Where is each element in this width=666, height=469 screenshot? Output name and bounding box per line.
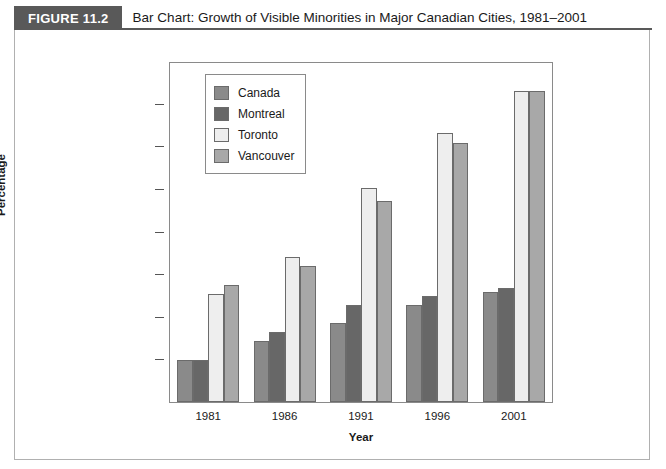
figure-number-badge: FIGURE 11.2: [14, 6, 122, 30]
bar-toronto-1996: [437, 133, 453, 402]
bar-montreal-1986: [269, 332, 285, 402]
bar-montreal-1996: [422, 296, 438, 402]
legend-label-montreal: Montreal: [238, 107, 285, 121]
bar-canada-1991: [330, 323, 346, 402]
y-axis-title: Percentage: [0, 154, 7, 216]
legend-swatch-vancouver: [214, 149, 229, 163]
y-tick-mark: [155, 359, 164, 360]
bar-toronto-1981: [208, 294, 224, 402]
legend-swatch-toronto: [214, 128, 229, 142]
bar-toronto-1986: [285, 257, 301, 402]
x-axis-label-1991: 1991: [323, 410, 399, 422]
bar-vancouver-1996: [453, 143, 469, 402]
bar-canada-1981: [177, 360, 193, 402]
legend-item-montreal: Montreal: [214, 103, 294, 124]
y-tick-mark: [155, 146, 164, 147]
chart-plot-area: Percentage 0510152025303540 198119861991…: [15, 30, 651, 460]
bar-vancouver-2001: [529, 91, 545, 402]
legend-item-toronto: Toronto: [214, 124, 294, 145]
legend-label-canada: Canada: [238, 86, 280, 100]
bar-vancouver-1981: [224, 285, 240, 402]
legend-item-vancouver: Vancouver: [214, 145, 294, 166]
x-axis-label-1981: 1981: [170, 410, 246, 422]
y-tick-mark: [155, 189, 164, 190]
legend-swatch-canada: [214, 86, 229, 100]
figure-container: FIGURE 11.2 Bar Chart: Growth of Visible…: [0, 0, 666, 469]
chart-legend: CanadaMontrealTorontoVancouver: [205, 74, 306, 174]
legend-swatch-montreal: [214, 107, 229, 121]
x-axis-label-2001: 2001: [476, 410, 552, 422]
figure-header: FIGURE 11.2 Bar Chart: Growth of Visible…: [14, 6, 652, 30]
legend-label-vancouver: Vancouver: [238, 149, 294, 163]
bar-canada-1996: [406, 305, 422, 402]
figure-title: Bar Chart: Growth of Visible Minorities …: [122, 6, 652, 30]
bar-canada-2001: [483, 292, 499, 402]
bar-toronto-1991: [361, 188, 377, 402]
bar-montreal-1981: [193, 360, 209, 402]
y-tick-mark: [155, 402, 164, 403]
x-axis-title: Year: [169, 431, 553, 443]
y-tick-mark: [155, 232, 164, 233]
x-axis-label-1996: 1996: [399, 410, 475, 422]
bar-montreal-2001: [498, 288, 514, 402]
y-tick-mark: [155, 104, 164, 105]
x-axis-label-1986: 1986: [246, 410, 322, 422]
bar-montreal-1991: [346, 305, 362, 402]
legend-label-toronto: Toronto: [238, 128, 278, 142]
legend-item-canada: Canada: [214, 82, 294, 103]
bar-vancouver-1986: [300, 266, 316, 402]
figure-body: Percentage 0510152025303540 198119861991…: [14, 30, 650, 460]
y-tick-mark: [155, 317, 164, 318]
bar-toronto-2001: [514, 91, 530, 402]
bar-vancouver-1991: [377, 201, 393, 402]
bar-canada-1986: [254, 341, 270, 402]
y-tick-mark: [155, 274, 164, 275]
y-tick-mark: [155, 61, 164, 62]
